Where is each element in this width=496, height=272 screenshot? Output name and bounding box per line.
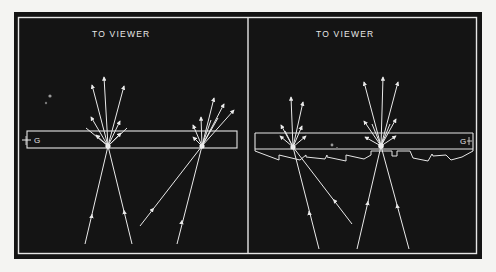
- right-panel-title: TO VIEWER: [316, 29, 374, 39]
- speck: [331, 144, 334, 147]
- diagram-canvas: TO VIEWER G: [0, 0, 496, 272]
- left-panel-title: TO VIEWER: [92, 29, 150, 39]
- left-plate-label: G: [34, 136, 40, 145]
- speck: [48, 94, 51, 97]
- speck: [336, 147, 338, 149]
- optics-diagram-figure: TO VIEWER G: [0, 0, 496, 272]
- speck: [45, 102, 47, 104]
- right-plate-label: G: [460, 137, 466, 146]
